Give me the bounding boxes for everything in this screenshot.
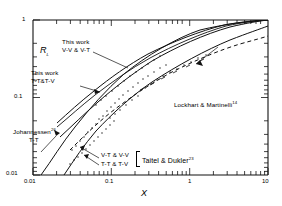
annotation-this-work-vv: This work V-V & V-T: [62, 38, 90, 54]
series-taitel-dukler: [64, 26, 268, 175]
annotation-lockhart-martinelli: Lockhart & Martinelli14: [174, 100, 237, 109]
annotation-this-work-tt: This work T-T&T-V: [31, 69, 58, 85]
y-axis-ticks: [33, 20, 40, 175]
figure: RL X 1 0.1 0.01 0.01 0.1 1 10 This work …: [0, 0, 282, 206]
annotation-johannessen: Johannessen26 T-T: [13, 127, 56, 144]
y-axis-right-ticks: [261, 43, 268, 171]
x-axis-label: X: [141, 188, 147, 198]
x-tick-10: 10: [262, 178, 269, 184]
y-axis-label: RL: [40, 45, 49, 57]
taitel-brace: [136, 151, 140, 167]
chart-canvas: [0, 0, 282, 206]
y-tick-1: 1: [22, 16, 25, 22]
annotation-taitel-pair: V-T & V-V T-T & T-V: [101, 151, 129, 169]
y-tick-0.1: 0.1: [14, 93, 22, 99]
y-tick-0.01: 0.01: [6, 170, 18, 176]
x-tick-1: 1: [188, 178, 191, 184]
x-tick-0.1: 0.1: [105, 178, 113, 184]
lockhart-dash-marks: [140, 59, 204, 90]
annotation-taitel-dukler: Taitel & Dukler23: [142, 156, 194, 166]
series-lockhart-martinelli: [70, 36, 268, 150]
x-tick-0.01: 0.01: [24, 178, 36, 184]
